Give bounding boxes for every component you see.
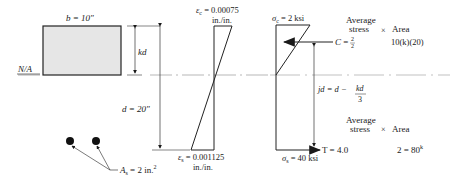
concrete-stress-label: σc = 2 ksi (272, 13, 305, 24)
rc-beam-analysis-diagram: b = 10" N/A kd d = 20" As = 2 in.2 εc = … (0, 0, 464, 187)
c-area-expr: 10(k)(20) (391, 37, 424, 47)
rebar-right (92, 137, 100, 145)
depth-dimension: d = 20" (122, 26, 190, 150)
width-label: b = 10" (66, 13, 94, 23)
t-area-header: Area (392, 124, 410, 134)
strain-diagram: εc = 0.00075 in./in. εs = 0.001125 in./i… (178, 5, 239, 172)
kd-dimension: kd (127, 26, 160, 75)
c-area-header: Area (392, 24, 410, 34)
compression-zone (43, 26, 121, 75)
rebar-left (66, 137, 74, 145)
c-times: × (381, 26, 386, 35)
t-label: T = 4.0 (322, 145, 349, 155)
steel-strain-units: in./in. (193, 162, 213, 172)
steel-stress-label: σs = 40 ksi (282, 153, 319, 164)
c-label: C = (335, 37, 348, 47)
jd-frac-num: kd (356, 84, 365, 93)
c-frac-num: 2 (351, 36, 354, 42)
jd-label: jd = d − (317, 84, 347, 94)
concrete-strain-units: in./in. (212, 15, 232, 25)
beam-cross-section: b = 10" N/A (17, 13, 121, 75)
c-avg-header-2: stress (349, 24, 369, 34)
c-frac-den: 2 (351, 43, 354, 49)
compression-force: Average stress × Area C = 2 2 10(k)(20) (335, 15, 424, 49)
steel-area-label: As = 2 in.2 (119, 164, 156, 176)
t-avg-header-2: stress (350, 124, 370, 134)
tension-force: Average stress × Area T = 4.0 2 = 80k (322, 115, 423, 155)
jd-frac-den: 3 (358, 95, 362, 104)
depth-label: d = 20" (122, 104, 150, 114)
t-area-expr: 2 = 80k (397, 144, 423, 155)
reinforcing-bars: As = 2 in.2 (66, 137, 156, 176)
na-label: N/A (17, 64, 33, 74)
t-times: × (381, 125, 386, 134)
kd-label: kd (138, 47, 147, 57)
